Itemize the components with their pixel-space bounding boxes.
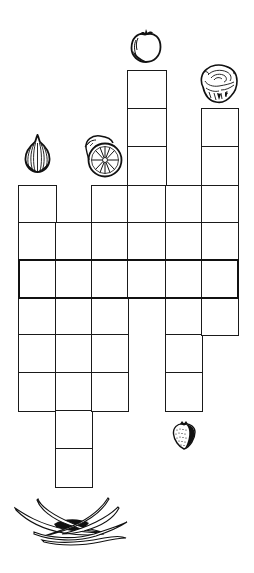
- grid-cell[interactable]: [55, 297, 93, 336]
- strawberry-icon: [172, 420, 196, 450]
- grid-cell[interactable]: [55, 259, 93, 299]
- grid-cell[interactable]: [18, 185, 57, 224]
- grid-cell[interactable]: [165, 259, 203, 299]
- grid-cell[interactable]: [165, 372, 203, 412]
- grid-cell[interactable]: [201, 108, 239, 148]
- grid-cell[interactable]: [165, 297, 203, 336]
- grid-cell[interactable]: [91, 372, 129, 412]
- grid-cell[interactable]: [91, 334, 129, 374]
- grid-cell[interactable]: [18, 372, 57, 412]
- grid-cell[interactable]: [55, 410, 93, 450]
- grid-cell[interactable]: [91, 259, 129, 299]
- grid-cell[interactable]: [127, 70, 167, 110]
- grid-cell[interactable]: [201, 146, 239, 187]
- grid-cell[interactable]: [55, 222, 93, 261]
- onion-icon: [24, 134, 51, 173]
- grid-cell[interactable]: [201, 259, 239, 299]
- grid-cell[interactable]: [127, 108, 167, 148]
- grid-cell[interactable]: [165, 334, 203, 374]
- grid-cell[interactable]: [127, 185, 167, 224]
- green-beans-icon: [14, 496, 128, 548]
- grid-cell[interactable]: [18, 334, 57, 374]
- grid-cell[interactable]: [165, 222, 203, 261]
- grid-cell[interactable]: [165, 185, 203, 224]
- grid-cell[interactable]: [201, 222, 239, 261]
- grid-cell[interactable]: [18, 297, 57, 336]
- lettuce-icon: [199, 63, 239, 104]
- grid-cell[interactable]: [55, 372, 93, 412]
- grid-cell[interactable]: [91, 222, 129, 261]
- grid-cell[interactable]: [55, 448, 93, 488]
- grid-cell[interactable]: [18, 222, 57, 261]
- grid-cell[interactable]: [127, 259, 167, 299]
- grid-cell[interactable]: [127, 222, 167, 261]
- grid-cell[interactable]: [127, 146, 167, 187]
- grid-cell[interactable]: [91, 297, 129, 336]
- grid-cell[interactable]: [91, 185, 129, 224]
- tomato-icon: [130, 27, 162, 63]
- grid-cell[interactable]: [201, 297, 239, 336]
- grid-cell[interactable]: [201, 185, 239, 224]
- grid-cell[interactable]: [18, 259, 57, 299]
- grid-cell[interactable]: [55, 334, 93, 374]
- orange-icon: [82, 134, 123, 178]
